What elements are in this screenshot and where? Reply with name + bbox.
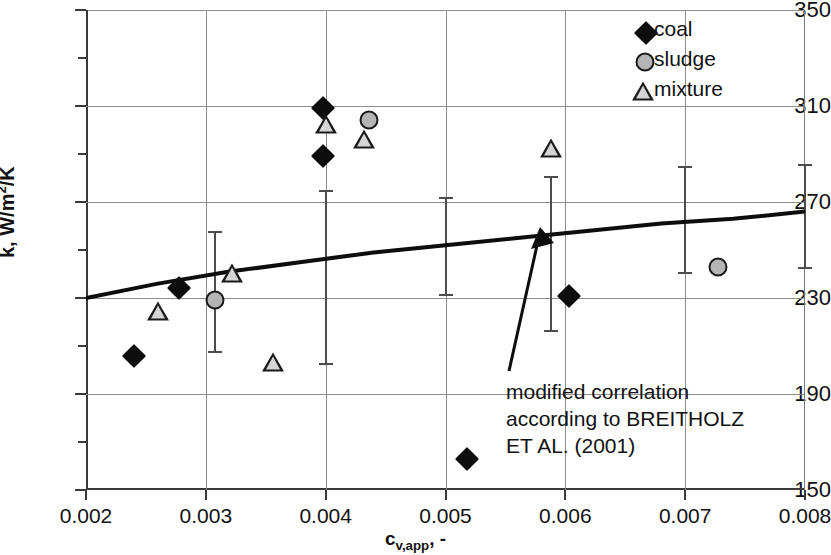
annotation-line: modified correlation <box>506 378 744 405</box>
legend: coalsludgemixture <box>628 14 723 104</box>
x-tick-major <box>445 490 447 500</box>
legend-item-sludge: sludge <box>628 44 723 74</box>
x-axis-title-subscript: v,app <box>395 538 429 553</box>
x-tick-label: 0.002 <box>60 504 113 528</box>
data-point-mixture <box>540 139 562 158</box>
data-point-mixture <box>262 352 284 371</box>
filled-diamond-icon <box>628 17 654 41</box>
y-tick-major <box>75 105 86 107</box>
x-tick-major <box>564 490 566 500</box>
gridline-vertical <box>206 10 207 490</box>
y-tick-minor <box>78 441 86 443</box>
annotation-label: modified correlationaccording to BREITHO… <box>506 378 744 459</box>
legend-label: sludge <box>654 47 716 71</box>
y-axis-title-superscript: 2 <box>0 186 9 193</box>
data-point-mixture <box>315 115 337 134</box>
legend-label: mixture <box>654 77 723 101</box>
y-axis-title: k, W/m2/K <box>0 166 19 258</box>
annotation-line: ET AL. (2001) <box>506 432 744 459</box>
error-bar <box>804 164 806 270</box>
error-bar <box>684 166 686 274</box>
error-bar <box>445 197 447 295</box>
scatter-chart: k, W/m2/K 150190230270310350 0.0020.0030… <box>0 0 831 555</box>
error-bar <box>325 190 327 365</box>
error-bar <box>550 176 552 332</box>
data-point-mixture <box>147 302 169 321</box>
y-tick-minor <box>78 153 86 155</box>
legend-label: coal <box>654 17 693 41</box>
x-tick-label: 0.003 <box>180 504 233 528</box>
x-tick-major <box>205 490 207 500</box>
x-tick-major <box>684 490 686 500</box>
x-tick-label: 0.004 <box>299 504 352 528</box>
legend-item-coal: coal <box>628 14 723 44</box>
plot-border-left <box>86 10 88 490</box>
y-axis-title-suffix: /K <box>0 166 18 186</box>
y-tick-minor <box>78 345 86 347</box>
y-tick-major <box>75 297 86 299</box>
x-tick-major <box>804 490 806 500</box>
y-tick-major <box>75 201 86 203</box>
data-point-mixture <box>221 264 243 283</box>
x-tick-label: 0.007 <box>659 504 712 528</box>
x-axis-title-prefix: c <box>385 528 396 549</box>
x-tick-label: 0.006 <box>539 504 592 528</box>
data-point-coal <box>122 344 146 368</box>
annotation-line: according to BREITHOLZ <box>506 405 744 432</box>
y-tick-minor <box>78 249 86 251</box>
data-point-sludge <box>206 291 225 310</box>
data-point-sludge <box>708 257 727 276</box>
legend-item-mixture: mixture <box>628 74 723 104</box>
y-axis-title-prefix: k, W/m <box>0 194 18 258</box>
x-axis-title: cv,app, - <box>0 528 831 553</box>
data-point-coal <box>455 447 479 471</box>
data-point-coal <box>167 276 191 300</box>
data-point-sludge <box>359 111 378 130</box>
y-tick-major <box>75 9 86 11</box>
data-point-coal <box>311 144 335 168</box>
y-tick-minor <box>78 57 86 59</box>
data-point-mixture <box>353 129 375 148</box>
x-tick-label: 0.005 <box>419 504 472 528</box>
x-axis-title-suffix: , - <box>429 528 446 549</box>
data-point-coal <box>557 284 581 308</box>
x-tick-label: 0.008 <box>779 504 831 528</box>
open-triangle-icon <box>628 77 654 101</box>
x-tick-major <box>85 490 87 500</box>
y-tick-major <box>75 393 86 395</box>
gray-circle-icon <box>628 47 654 71</box>
x-tick-major <box>325 490 327 500</box>
